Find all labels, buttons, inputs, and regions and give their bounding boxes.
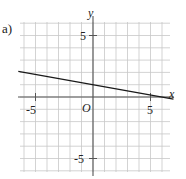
y-axis-label: y <box>87 6 94 20</box>
y-tick-label-neg5: -5 <box>74 152 84 166</box>
x-tick-label-neg5: -5 <box>26 103 36 117</box>
y-tick-label-5: 5 <box>80 29 86 43</box>
coordinate-plane: a) y x O -5 5 5 -5 <box>0 0 186 179</box>
x-axis-label: x <box>168 87 175 101</box>
origin-label: O <box>82 101 91 115</box>
problem-label: a) <box>2 21 12 36</box>
x-tick-label-5: 5 <box>147 103 153 117</box>
